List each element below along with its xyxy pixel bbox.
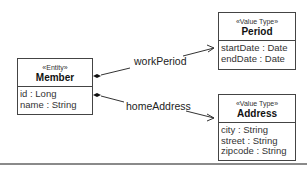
association-label-homeaddress: homeAddress xyxy=(126,100,191,112)
class-name: Address xyxy=(219,108,295,120)
attribute: zipcode : String xyxy=(221,146,293,157)
stereotype-label: «Value Type» xyxy=(219,95,295,108)
class-period[interactable]: «Value Type» Period startDate : Date end… xyxy=(218,12,296,70)
bottom-divider xyxy=(0,163,307,165)
attribute: startDate : Date xyxy=(221,43,293,54)
homeaddress-edge-segment-2 xyxy=(186,111,214,118)
attribute: id : Long xyxy=(20,89,90,100)
class-header: «Value Type» Address xyxy=(219,95,295,123)
class-address[interactable]: «Value Type» Address city : String stree… xyxy=(218,94,296,161)
workperiod-edge-segment-2 xyxy=(183,48,214,56)
stereotype-label: «Value Type» xyxy=(219,13,295,26)
composition-diamond-icon xyxy=(93,93,101,97)
attribute-list: id : Long name : String xyxy=(18,87,92,112)
attribute-list: startDate : Date endDate : Date xyxy=(219,41,295,66)
workperiod-edge-segment-1 xyxy=(101,68,130,75)
attribute: city : String xyxy=(221,125,293,136)
class-header: «Value Type» Period xyxy=(219,13,295,41)
attribute-list: city : String street : String zipcode : … xyxy=(219,123,295,159)
class-name: Period xyxy=(219,26,295,38)
class-name: Member xyxy=(18,72,92,84)
class-member[interactable]: «Entity» Member id : Long name : String xyxy=(17,58,93,115)
attribute: endDate : Date xyxy=(221,54,293,65)
stereotype-label: «Entity» xyxy=(18,59,92,72)
class-header: «Entity» Member xyxy=(18,59,92,87)
association-label-workperiod: workPeriod xyxy=(134,55,187,67)
composition-diamond-icon xyxy=(93,74,101,78)
homeaddress-edge-segment-1 xyxy=(101,96,124,102)
attribute: name : String xyxy=(20,100,90,111)
